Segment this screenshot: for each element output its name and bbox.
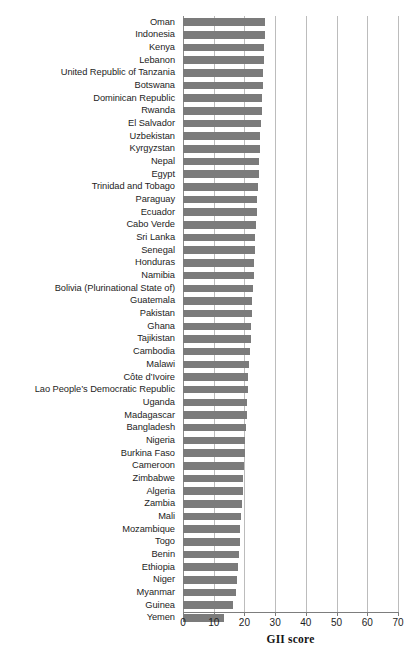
- bar[interactable]: [183, 487, 243, 495]
- bar-row[interactable]: [183, 371, 398, 384]
- bar-row[interactable]: [183, 130, 398, 143]
- category-label: Uzbekistan: [130, 132, 176, 141]
- bar[interactable]: [183, 44, 264, 52]
- bar[interactable]: [183, 348, 250, 356]
- bar-row[interactable]: [183, 574, 398, 587]
- bar[interactable]: [183, 525, 240, 533]
- bar-row[interactable]: [183, 383, 398, 396]
- bar[interactable]: [183, 259, 254, 267]
- bar[interactable]: [183, 158, 259, 166]
- bar-row[interactable]: [183, 536, 398, 549]
- category-label: Ecuador: [141, 208, 175, 217]
- bar[interactable]: [183, 361, 249, 369]
- bar-row[interactable]: [183, 92, 398, 105]
- bar[interactable]: [183, 183, 258, 191]
- bar[interactable]: [183, 538, 240, 546]
- bar[interactable]: [183, 82, 263, 90]
- bar[interactable]: [183, 386, 248, 394]
- bar-row[interactable]: [183, 358, 398, 371]
- bar[interactable]: [183, 94, 262, 102]
- bar[interactable]: [183, 589, 236, 597]
- bar-row[interactable]: [183, 206, 398, 219]
- bar-row[interactable]: [183, 295, 398, 308]
- bar-row[interactable]: [183, 498, 398, 511]
- bar[interactable]: [183, 475, 243, 483]
- bar-row[interactable]: [183, 143, 398, 156]
- category-label-row: Mali: [0, 510, 179, 523]
- bar[interactable]: [183, 285, 253, 293]
- category-label: Benin: [151, 550, 175, 559]
- bar[interactable]: [183, 221, 256, 229]
- bar[interactable]: [183, 18, 265, 26]
- bar[interactable]: [183, 120, 261, 128]
- bar[interactable]: [183, 437, 245, 445]
- bar[interactable]: [183, 551, 239, 559]
- bar-row[interactable]: [183, 586, 398, 599]
- bar-row[interactable]: [183, 117, 398, 130]
- bar[interactable]: [183, 145, 260, 153]
- bar-row[interactable]: [183, 307, 398, 320]
- bar[interactable]: [183, 462, 244, 470]
- bar-row[interactable]: [183, 345, 398, 358]
- bar[interactable]: [183, 107, 262, 115]
- bar[interactable]: [183, 335, 251, 343]
- bar-row[interactable]: [183, 599, 398, 612]
- bar[interactable]: [183, 513, 241, 521]
- category-label-row: Lao People’s Democratic Republic: [0, 383, 179, 396]
- bar-row[interactable]: [183, 257, 398, 270]
- bar-row[interactable]: [183, 155, 398, 168]
- bar[interactable]: [183, 500, 242, 508]
- bar-row[interactable]: [183, 548, 398, 561]
- bar-row[interactable]: [183, 269, 398, 282]
- bar-row[interactable]: [183, 561, 398, 574]
- bar[interactable]: [183, 297, 252, 305]
- bar-row[interactable]: [183, 79, 398, 92]
- bar-row[interactable]: [183, 168, 398, 181]
- bar[interactable]: [183, 373, 248, 381]
- bar[interactable]: [183, 449, 245, 457]
- bar-row[interactable]: [183, 447, 398, 460]
- bar-row[interactable]: [183, 510, 398, 523]
- bar-row[interactable]: [183, 485, 398, 498]
- bar[interactable]: [183, 56, 264, 64]
- bar-row[interactable]: [183, 181, 398, 194]
- bar-row[interactable]: [183, 396, 398, 409]
- bar[interactable]: [183, 234, 255, 242]
- bar-row[interactable]: [183, 523, 398, 536]
- category-label: Myanmar: [137, 588, 175, 597]
- bar-row[interactable]: [183, 422, 398, 435]
- bar[interactable]: [183, 563, 238, 571]
- bar-row[interactable]: [183, 320, 398, 333]
- bar-row[interactable]: [183, 16, 398, 29]
- bar[interactable]: [183, 272, 254, 280]
- bar[interactable]: [183, 399, 247, 407]
- bar-row[interactable]: [183, 244, 398, 257]
- bar[interactable]: [183, 601, 233, 609]
- bar[interactable]: [183, 323, 251, 331]
- bar-row[interactable]: [183, 333, 398, 346]
- bar-row[interactable]: [183, 105, 398, 118]
- bar-row[interactable]: [183, 282, 398, 295]
- bar[interactable]: [183, 170, 259, 178]
- bar-row[interactable]: [183, 409, 398, 422]
- bar-row[interactable]: [183, 67, 398, 80]
- bar-row[interactable]: [183, 460, 398, 473]
- bar[interactable]: [183, 576, 237, 584]
- bar-row[interactable]: [183, 29, 398, 42]
- bar[interactable]: [183, 196, 257, 204]
- bar-row[interactable]: [183, 41, 398, 54]
- bar[interactable]: [183, 411, 247, 419]
- bar[interactable]: [183, 208, 257, 216]
- bar-row[interactable]: [183, 434, 398, 447]
- bar[interactable]: [183, 132, 260, 140]
- bar[interactable]: [183, 31, 265, 39]
- bar-row[interactable]: [183, 472, 398, 485]
- bar-row[interactable]: [183, 231, 398, 244]
- bar-row[interactable]: [183, 193, 398, 206]
- bar-row[interactable]: [183, 219, 398, 232]
- bar-row[interactable]: [183, 54, 398, 67]
- bar[interactable]: [183, 69, 263, 77]
- bar[interactable]: [183, 310, 252, 318]
- bar[interactable]: [183, 424, 246, 432]
- bar[interactable]: [183, 246, 255, 254]
